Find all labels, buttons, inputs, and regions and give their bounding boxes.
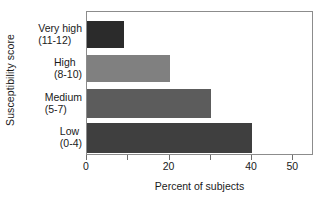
category-label-line1: Very high [38, 22, 82, 34]
category-label-line1: Medium [45, 91, 82, 103]
category-label-line2: (8-10) [54, 68, 82, 80]
category-label-line1: Low [60, 125, 82, 137]
category-label-line1: High [54, 56, 82, 68]
category-label-line2: (0-4) [60, 137, 82, 149]
x-axis-title: Percent of subjects [86, 180, 313, 192]
x-axis-tick-labels: 0204050 [86, 160, 313, 174]
category-label: Medium(5-7) [45, 91, 82, 115]
y-axis-title: Susceptibility score [0, 0, 20, 160]
bar [87, 21, 124, 48]
bar [87, 89, 211, 118]
tick-label: 20 [163, 160, 175, 172]
category-label-line2: (11-12) [38, 34, 82, 46]
category-label: High(8-10) [54, 56, 82, 80]
tick-label: 40 [245, 160, 257, 172]
category-label-group: Very high(11-12)High(8-10)Medium(5-7)Low… [18, 11, 84, 155]
bar [87, 55, 170, 82]
category-label: Very high(11-12) [38, 22, 82, 46]
y-axis-title-text: Susceptibility score [4, 34, 16, 126]
tick-label: 50 [287, 160, 299, 172]
category-label-line2: (5-7) [45, 103, 82, 115]
category-label: Low(0-4) [60, 125, 82, 149]
plot-area [86, 11, 313, 155]
bars-layer [87, 12, 312, 154]
bar [87, 123, 252, 153]
bar-chart: Susceptibility score Very high(11-12)Hig… [0, 0, 332, 204]
tick-label: 0 [83, 160, 89, 172]
